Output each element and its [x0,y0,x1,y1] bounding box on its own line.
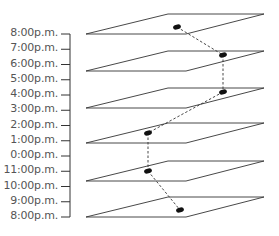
plane-2 [86,51,264,71]
plane-5 [86,161,264,181]
plane-3 [86,88,264,108]
plane-1 [86,14,264,34]
time-space-diagram: 8:00p.m.7:00p.m.6:00p.m.5:00p.m.4:00p.m.… [0,0,279,236]
plane-4 [86,123,264,143]
plane-6 [86,197,264,217]
planes-svg [0,0,279,236]
